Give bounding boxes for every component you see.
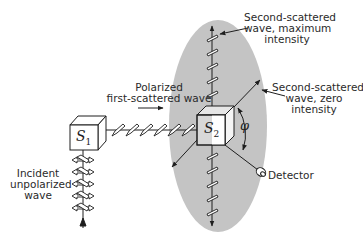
polarized-line-2: first-scattered wave bbox=[104, 93, 214, 104]
s1-label: S1 bbox=[76, 128, 91, 147]
s1-subscript: 1 bbox=[86, 137, 92, 147]
polarized-wave-label: Polarized first-scattered wave bbox=[104, 82, 214, 104]
s2-label: S2 bbox=[204, 120, 219, 139]
incident-wave-label: Incident unpolarized wave bbox=[10, 168, 66, 201]
detector-label: Detector bbox=[268, 170, 314, 181]
max-intensity-label: Second-scattered wave, maximum intensity bbox=[244, 12, 330, 45]
s2-symbol: S bbox=[204, 120, 214, 136]
diagram-canvas: S1 S2 φ Incident unpolarized wave Polari… bbox=[0, 0, 363, 241]
s2-subscript: 2 bbox=[214, 129, 220, 139]
incident-line-3: wave bbox=[10, 190, 66, 201]
zero-intensity-label: Second-scattered wave, zero intensity bbox=[272, 82, 356, 115]
max-line-3: intensity bbox=[244, 34, 330, 45]
phi-label: φ bbox=[240, 118, 249, 133]
incident-wave bbox=[72, 150, 94, 228]
zero-line-3: intensity bbox=[272, 104, 356, 115]
s1-symbol: S bbox=[76, 128, 86, 144]
